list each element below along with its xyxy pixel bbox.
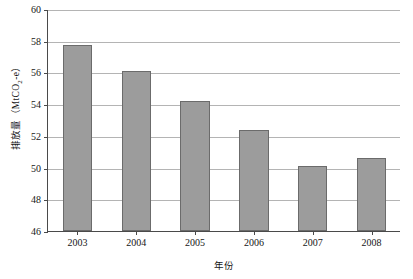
emissions-bar-chart: 排放量（MtCO2-e） 4648505254565860 2003200420… xyxy=(0,0,413,279)
x-tick-label-2004: 2004 xyxy=(126,238,146,248)
y-tick-label: 60 xyxy=(31,5,41,15)
bar-2005 xyxy=(180,101,209,231)
y-axis-title: 排放量（MtCO2-e） xyxy=(8,46,24,166)
x-tick-mark xyxy=(136,231,137,235)
bar-2007 xyxy=(298,166,327,231)
plot-area: 4648505254565860 20032004200520062007200… xyxy=(47,10,400,232)
bar-2003 xyxy=(63,45,92,231)
y-tick-label: 54 xyxy=(31,100,41,110)
y-tick-label: 50 xyxy=(31,164,41,174)
x-tick-mark xyxy=(195,231,196,235)
x-tick-label-2007: 2007 xyxy=(303,238,323,248)
x-axis-title: 年份 xyxy=(47,258,400,272)
y-axis-title-tail: -e） xyxy=(11,62,21,80)
bars-layer xyxy=(48,10,400,231)
y-axis-title-main: 排放量（MtCO xyxy=(11,84,21,151)
y-tick-label: 52 xyxy=(31,132,41,142)
x-tick-mark xyxy=(254,231,255,235)
bar-2008 xyxy=(357,158,386,231)
y-tick-label: 58 xyxy=(31,37,41,47)
y-tick-label: 56 xyxy=(31,68,41,78)
x-tick-label-2003: 2003 xyxy=(67,238,87,248)
y-tick-label: 48 xyxy=(31,195,41,205)
y-tick-label: 46 xyxy=(31,227,41,237)
x-tick-label-2006: 2006 xyxy=(244,238,264,248)
x-tick-label-2005: 2005 xyxy=(185,238,205,248)
bar-2004 xyxy=(122,71,151,231)
y-tick-mark xyxy=(44,232,48,233)
x-tick-mark xyxy=(313,231,314,235)
y-axis-title-subscript: 2 xyxy=(16,80,24,84)
bar-2006 xyxy=(239,130,268,231)
x-tick-label-2008: 2008 xyxy=(362,238,382,248)
x-tick-mark xyxy=(372,231,373,235)
x-tick-mark xyxy=(77,231,78,235)
